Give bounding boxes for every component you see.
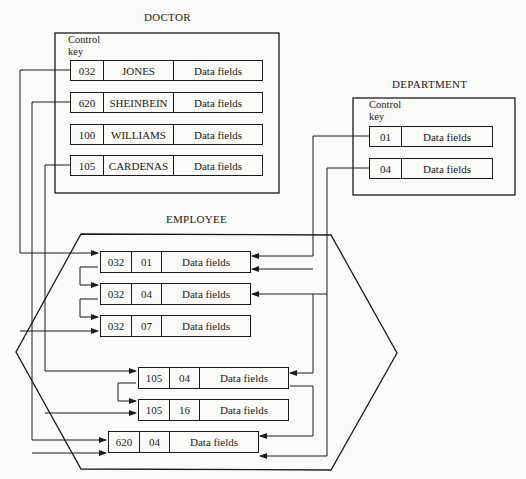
- employee-data-fields: Data fields: [169, 432, 258, 452]
- doctor-key: 105: [71, 156, 103, 175]
- doctor-data-fields: Data fields: [173, 156, 262, 175]
- employee-data-fields: Data fields: [199, 400, 288, 420]
- department-record: 01 Data fields: [369, 126, 493, 147]
- department-file-title: DEPARTMENT: [392, 78, 467, 90]
- doctor-data-fields: Data fields: [173, 61, 262, 80]
- employee-doctor-key: 032: [101, 316, 131, 336]
- doctor-data-fields: Data fields: [173, 125, 262, 144]
- employee-record: 032 01 Data fields: [100, 251, 251, 273]
- doctor-name: SHEINBEIN: [103, 93, 173, 112]
- employee-dept-key: 07: [131, 316, 161, 336]
- employee-record: 620 04 Data fields: [108, 431, 259, 453]
- employee-data-fields: Data fields: [161, 316, 250, 336]
- employee-dept-key: 04: [169, 368, 199, 388]
- doctor-file-title: DOCTOR: [144, 11, 191, 23]
- employee-record: 032 04 Data fields: [100, 283, 251, 305]
- doctor-name: WILLIAMS: [103, 125, 173, 144]
- doctor-key: 100: [71, 125, 103, 144]
- doctor-name: CARDENAS: [103, 156, 173, 175]
- department-key: 04: [370, 159, 401, 178]
- employee-doctor-key: 032: [101, 284, 131, 304]
- employee-dept-key: 04: [131, 284, 161, 304]
- department-data-fields: Data fields: [401, 159, 492, 178]
- department-control-key-label: Control key: [369, 99, 401, 123]
- employee-doctor-key: 105: [139, 400, 169, 420]
- employee-doctor-key: 032: [101, 252, 131, 272]
- employee-record: 105 04 Data fields: [138, 367, 289, 389]
- department-data-fields: Data fields: [401, 127, 492, 146]
- department-key: 01: [370, 127, 401, 146]
- employee-record: 032 07 Data fields: [100, 315, 251, 337]
- employee-doctor-key: 620: [109, 432, 139, 452]
- employee-file-title: EMPLOYEE: [166, 213, 227, 225]
- employee-data-fields: Data fields: [199, 368, 288, 388]
- employee-dept-key: 16: [169, 400, 199, 420]
- doctor-key: 620: [71, 93, 103, 112]
- doctor-data-fields: Data fields: [173, 93, 262, 112]
- employee-dept-key: 04: [139, 432, 169, 452]
- doctor-record: 032 JONES Data fields: [70, 60, 263, 81]
- doctor-name: JONES: [103, 61, 173, 80]
- employee-data-fields: Data fields: [161, 252, 250, 272]
- employee-data-fields: Data fields: [161, 284, 250, 304]
- employee-record: 105 16 Data fields: [138, 399, 289, 421]
- employee-doctor-key: 105: [139, 368, 169, 388]
- doctor-record: 100 WILLIAMS Data fields: [70, 124, 263, 145]
- doctor-record: 620 SHEINBEIN Data fields: [70, 92, 263, 113]
- doctor-record: 105 CARDENAS Data fields: [70, 155, 263, 176]
- employee-dept-key: 01: [131, 252, 161, 272]
- doctor-key: 032: [71, 61, 103, 80]
- department-record: 04 Data fields: [369, 158, 493, 179]
- doctor-control-key-label: Control key: [68, 34, 100, 58]
